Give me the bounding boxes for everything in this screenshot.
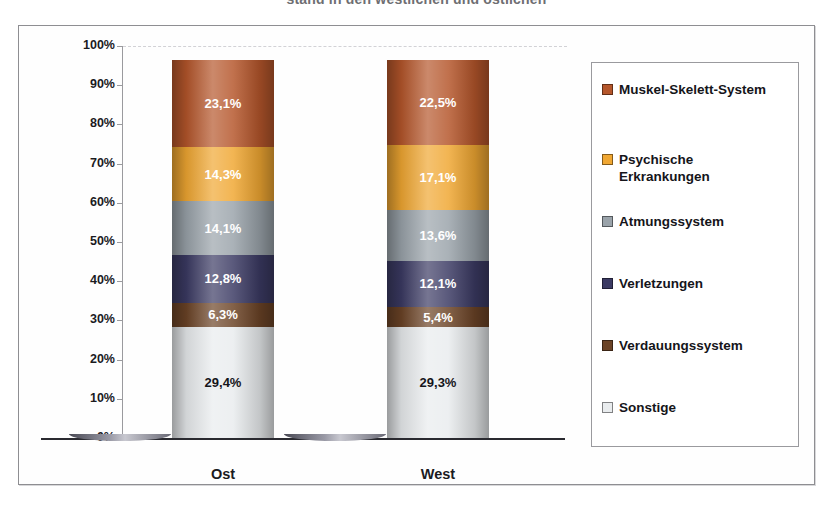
y-axis-tick-label: 60% (90, 195, 115, 209)
y-axis-tick-label: 40% (90, 273, 115, 287)
bar-segment[interactable]: 23,1% (172, 60, 274, 147)
chart-title: stand in den westlichen und östlichen (0, 0, 833, 7)
y-axis-tick-label: 20% (90, 352, 115, 366)
legend-item[interactable]: Muskel-Skelett-System (602, 81, 766, 98)
y-axis-labels: 100%90%80%70%60%50%40%30%20%10%0% (29, 46, 115, 439)
bar-segment[interactable]: 29,3% (387, 327, 489, 438)
bar-segment[interactable]: 22,5% (387, 60, 489, 145)
bar-segment[interactable]: 29,4% (172, 327, 274, 438)
bar-segment[interactable]: 12,1% (387, 261, 489, 307)
legend-item[interactable]: Atmungssystem (602, 213, 724, 230)
legend-item-label: Muskel-Skelett-System (619, 81, 766, 98)
legend-item-label: Verdauungssystem (619, 337, 743, 354)
legend-swatch-icon (602, 216, 613, 227)
legend-swatch-icon (602, 402, 613, 413)
bar-segment[interactable]: 17,1% (387, 145, 489, 210)
bar-ost[interactable]: 23,1%14,3%14,1%12,8%6,3%29,4% (172, 60, 274, 438)
y-axis-tick-label: 100% (83, 38, 115, 52)
legend-swatch-icon (602, 278, 613, 289)
x-axis-label-west: West (358, 466, 518, 482)
legend-swatch-icon (602, 154, 613, 165)
bar-segment-value: 14,1% (205, 221, 242, 236)
legend-item[interactable]: Sonstige (602, 399, 676, 416)
legend-item-label: Psychische Erkrankungen (619, 151, 710, 185)
bar-segment-value: 29,3% (420, 375, 457, 390)
bar-segment-value: 23,1% (205, 96, 242, 111)
legend-item-label: Atmungssystem (619, 213, 724, 230)
y-axis-tick-label: 80% (90, 116, 115, 130)
legend-item[interactable]: Verdauungssystem (602, 337, 743, 354)
legend-swatch-icon (602, 340, 613, 351)
y-axis-tick-label: 50% (90, 234, 115, 248)
bar-segment-value: 22,5% (420, 95, 457, 110)
chart-title-strip: stand in den westlichen und östlichen (0, 0, 833, 13)
legend-swatch-icon (602, 84, 613, 95)
bar-segment-value: 6,3% (208, 307, 238, 322)
bar-segment[interactable]: 6,3% (172, 303, 274, 327)
bar-segment-value: 12,8% (205, 271, 242, 286)
legend-item[interactable]: Psychische Erkrankungen (602, 151, 710, 185)
bar-west[interactable]: 22,5%17,1%13,6%12,1%5,4%29,3% (387, 60, 489, 438)
y-axis-tick-label: 30% (90, 312, 115, 326)
bar-segment[interactable]: 5,4% (387, 307, 489, 327)
y-axis-tick-label: 70% (90, 156, 115, 170)
bar-segment-value: 17,1% (420, 170, 457, 185)
plot-area: 23,1%14,3%14,1%12,8%6,3%29,4%22,5%17,1%1… (122, 46, 567, 438)
chart-legend: Muskel-Skelett-SystemPsychische Erkranku… (591, 62, 799, 447)
legend-item-label: Sonstige (619, 399, 676, 416)
x-axis-label-ost: Ost (143, 466, 303, 482)
bar-segment[interactable]: 14,3% (172, 147, 274, 201)
bar-segment-value: 13,6% (420, 228, 457, 243)
y-axis-tick-label: 90% (90, 77, 115, 91)
legend-item[interactable]: Verletzungen (602, 275, 703, 292)
y-axis-tick-label: 10% (90, 391, 115, 405)
bar-segment[interactable]: 13,6% (387, 210, 489, 261)
bar-segment[interactable]: 12,8% (172, 255, 274, 303)
bar-segment-value: 5,4% (423, 310, 453, 325)
chart-frame: 100%90%80%70%60%50%40%30%20%10%0% 23,1%1… (18, 25, 815, 485)
legend-item-label: Verletzungen (619, 275, 703, 292)
bar-segment-value: 14,3% (205, 167, 242, 182)
bar-segment-value: 12,1% (420, 276, 457, 291)
bar-segment[interactable]: 14,1% (172, 201, 274, 254)
bar-segment-value: 29,4% (205, 375, 242, 390)
